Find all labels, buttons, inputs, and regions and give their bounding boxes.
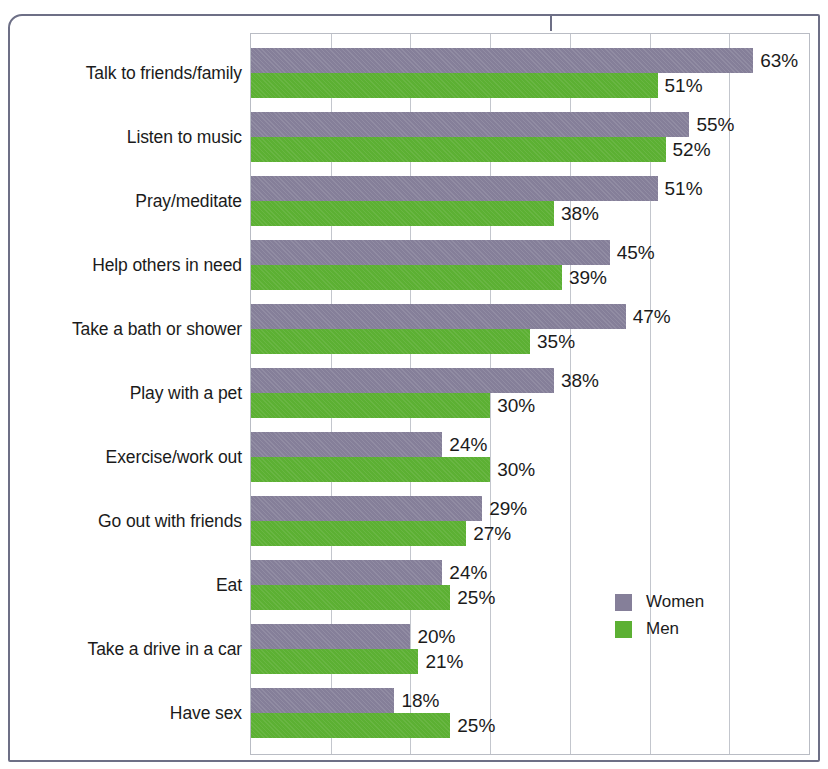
bar-men xyxy=(251,457,490,482)
bar-men xyxy=(251,137,666,162)
bar-value-label: 35% xyxy=(530,329,575,354)
category-axis-labels: Talk to friends/familyListen to musicPra… xyxy=(0,33,242,755)
bar-women xyxy=(251,112,689,137)
chart-legend: WomenMen xyxy=(615,590,725,644)
bar-value-label: 30% xyxy=(490,457,535,482)
bar-value-label: 30% xyxy=(490,393,535,418)
bar-value-label: 55% xyxy=(689,112,734,137)
bar-men xyxy=(251,201,554,226)
category-label: Listen to music xyxy=(127,127,242,147)
bars-layer: 63%51%55%52%51%38%45%39%47%35%38%30%24%3… xyxy=(251,33,809,755)
category-label: Have sex xyxy=(170,703,242,723)
bar-value-label: 25% xyxy=(450,585,495,610)
legend-swatch-women xyxy=(615,594,632,611)
bar-value-label: 45% xyxy=(610,240,655,265)
category-label: Help others in need xyxy=(92,255,242,275)
bar-value-label: 29% xyxy=(482,496,527,521)
bar-value-label: 47% xyxy=(626,304,671,329)
bar-value-label: 38% xyxy=(554,201,599,226)
bar-value-label: 24% xyxy=(442,432,487,457)
category-label: Talk to friends/family xyxy=(86,63,242,83)
category-label: Pray/meditate xyxy=(135,191,242,211)
category-label: Go out with friends xyxy=(98,511,242,531)
bar-women xyxy=(251,304,626,329)
bar-women xyxy=(251,688,394,713)
bar-men xyxy=(251,265,562,290)
bar-value-label: 63% xyxy=(753,48,798,73)
bar-women xyxy=(251,432,442,457)
bar-value-label: 20% xyxy=(410,624,455,649)
bar-value-label: 24% xyxy=(442,560,487,585)
legend-label: Women xyxy=(646,592,704,612)
bar-women xyxy=(251,560,442,585)
bar-value-label: 38% xyxy=(554,368,599,393)
bar-men xyxy=(251,73,658,98)
bar-men xyxy=(251,521,466,546)
category-label: Eat xyxy=(216,575,242,595)
bar-women xyxy=(251,240,610,265)
bar-value-label: 21% xyxy=(418,649,463,674)
legend-label: Men xyxy=(646,619,679,639)
bar-women xyxy=(251,176,658,201)
bar-women xyxy=(251,368,554,393)
bar-value-label: 52% xyxy=(666,137,711,162)
bar-value-label: 39% xyxy=(562,265,607,290)
bar-value-label: 27% xyxy=(466,521,511,546)
bar-men xyxy=(251,329,530,354)
bar-men xyxy=(251,649,418,674)
bar-value-label: 51% xyxy=(658,73,703,98)
legend-item: Men xyxy=(615,617,725,641)
category-label: Take a drive in a car xyxy=(87,639,242,659)
legend-swatch-men xyxy=(615,621,632,638)
category-label: Play with a pet xyxy=(130,383,242,403)
bar-value-label: 18% xyxy=(394,688,439,713)
category-label: Exercise/work out xyxy=(106,447,242,467)
bar-men xyxy=(251,393,490,418)
bar-men xyxy=(251,713,450,738)
bar-women xyxy=(251,496,482,521)
bar-women xyxy=(251,48,753,73)
category-label: Take a bath or shower xyxy=(72,319,242,339)
bar-men xyxy=(251,585,450,610)
grouped-bar-chart: Talk to friends/familyListen to musicPra… xyxy=(0,0,828,769)
bar-value-label: 25% xyxy=(450,713,495,738)
bar-value-label: 51% xyxy=(658,176,703,201)
legend-item: Women xyxy=(615,590,725,614)
bar-women xyxy=(251,624,410,649)
